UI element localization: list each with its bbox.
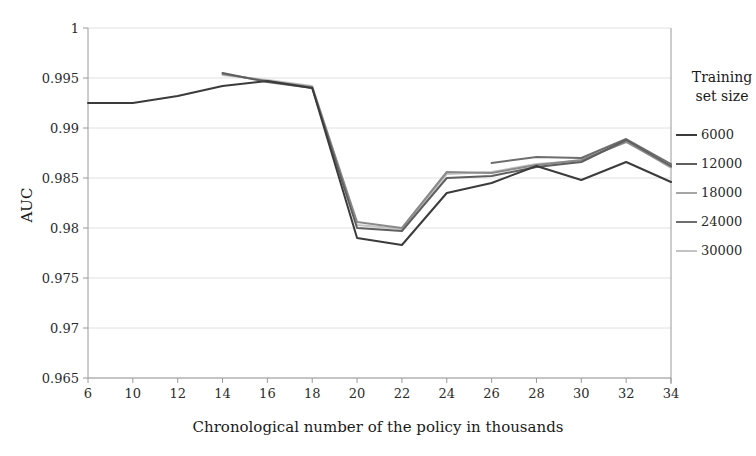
- x-tick-label: 14: [214, 386, 231, 401]
- y-axis-title: AUC: [18, 188, 36, 224]
- x-tick-label: 16: [259, 386, 276, 401]
- x-tick-label: 6: [84, 386, 92, 401]
- x-axis-title: Chronological number of the policy in th…: [193, 418, 564, 436]
- y-tick-label: 0.995: [42, 71, 79, 86]
- x-tick-label: 22: [394, 386, 411, 401]
- y-tick-label: 1: [71, 21, 79, 36]
- x-tick-label: 12: [169, 386, 186, 401]
- y-tick-label: 0.965: [42, 371, 79, 386]
- x-tick-label: 30: [573, 386, 590, 401]
- x-tick-label: 20: [349, 386, 366, 401]
- legend-title-line-1: Training: [692, 69, 752, 85]
- y-tick-label: 0.985: [42, 171, 79, 186]
- line-chart: 0.9650.970.9750.980.9850.990.9951 610121…: [0, 0, 756, 456]
- x-tick-label: 24: [438, 386, 455, 401]
- y-tick-label: 0.98: [50, 221, 79, 236]
- x-tick-label: 32: [618, 386, 635, 401]
- x-tick-label: 18: [304, 386, 321, 401]
- x-tick-label: 34: [663, 386, 680, 401]
- legend-label-6000: 6000: [701, 127, 734, 142]
- x-tick-label: 10: [125, 386, 142, 401]
- chart-figure: 0.9650.970.9750.980.9850.990.9951 610121…: [0, 0, 756, 456]
- legend-title-line-2: set size: [696, 88, 749, 104]
- x-tick-label: 28: [528, 386, 545, 401]
- y-tick-label: 0.99: [50, 121, 79, 136]
- legend-label-24000: 24000: [701, 214, 742, 229]
- legend-label-12000: 12000: [701, 156, 742, 171]
- x-tick-label: 26: [483, 386, 500, 401]
- legend-label-30000: 30000: [701, 243, 742, 258]
- legend-label-18000: 18000: [701, 185, 742, 200]
- y-tick-label: 0.975: [42, 271, 79, 286]
- y-tick-label: 0.97: [50, 321, 79, 336]
